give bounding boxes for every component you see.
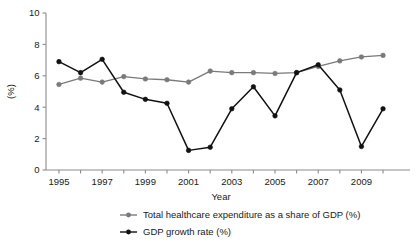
- x-tick-label: 2007: [308, 176, 329, 187]
- data-point: [208, 145, 213, 150]
- y-tick-label: 6: [34, 70, 39, 81]
- x-tick-label: 2009: [351, 176, 372, 187]
- data-point: [316, 63, 321, 68]
- series-line: [59, 55, 383, 84]
- y-tick-label: 10: [29, 7, 40, 18]
- series-line: [59, 59, 383, 150]
- data-point: [359, 55, 364, 60]
- legend-marker-swatch: [126, 230, 131, 235]
- y-axis-title: (%): [5, 84, 16, 99]
- data-point: [294, 70, 299, 75]
- data-point: [100, 57, 105, 62]
- data-point: [251, 84, 256, 89]
- x-tick-label: 1997: [92, 176, 113, 187]
- data-point: [381, 106, 386, 111]
- data-point: [338, 88, 343, 93]
- x-axis-title: Year: [211, 191, 230, 202]
- y-tick-label: 0: [34, 164, 39, 175]
- data-point: [121, 74, 126, 79]
- data-point: [273, 114, 278, 119]
- data-point: [186, 80, 191, 85]
- data-point: [78, 70, 83, 75]
- data-point: [121, 90, 126, 95]
- series-healthcare-expenditure: [57, 53, 386, 87]
- data-point: [143, 77, 148, 82]
- x-tick-label: 2005: [264, 176, 285, 187]
- data-point: [208, 69, 213, 74]
- data-series: [57, 53, 386, 153]
- legend-marker-swatch: [126, 213, 131, 218]
- data-point: [338, 59, 343, 64]
- data-point: [230, 106, 235, 111]
- data-point: [381, 53, 386, 58]
- x-tick-label: 2003: [221, 176, 242, 187]
- data-point: [230, 70, 235, 75]
- legend-label: GDP growth rate (%): [143, 226, 231, 237]
- chart-figure: 024681019951997199920012003200520072009Y…: [0, 0, 420, 252]
- x-tick-label: 2001: [178, 176, 199, 187]
- data-point: [100, 80, 105, 85]
- data-point: [251, 70, 256, 75]
- legend-item: Total healthcare expenditure as a share …: [120, 209, 360, 220]
- x-tick-label: 1999: [135, 176, 156, 187]
- data-point: [165, 101, 170, 106]
- line-chart-canvas: 024681019951997199920012003200520072009Y…: [0, 0, 420, 252]
- y-tick-label: 8: [34, 39, 39, 50]
- y-tick-label: 2: [34, 133, 39, 144]
- data-point: [78, 76, 83, 81]
- data-point: [57, 82, 62, 87]
- chart-legend: Total healthcare expenditure as a share …: [120, 209, 360, 237]
- y-tick-label: 4: [34, 102, 39, 113]
- data-point: [359, 144, 364, 149]
- data-point: [273, 71, 278, 76]
- data-point: [57, 59, 62, 64]
- x-tick-label: 1995: [48, 176, 69, 187]
- data-point: [165, 77, 170, 82]
- data-point: [143, 97, 148, 102]
- data-point: [186, 148, 191, 153]
- axes: [43, 13, 411, 174]
- legend-label: Total healthcare expenditure as a share …: [143, 209, 360, 220]
- legend-item: GDP growth rate (%): [120, 226, 231, 237]
